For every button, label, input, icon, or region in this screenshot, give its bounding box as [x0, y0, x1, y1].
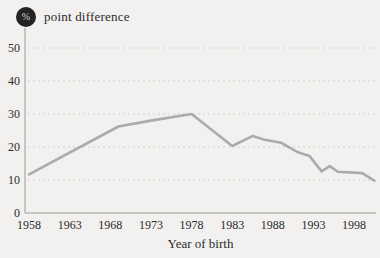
- chart-header: % point difference: [16, 7, 130, 27]
- chart-canvas: 0102030405019581963196819731978198319881…: [0, 0, 380, 258]
- chart-title: point difference: [44, 9, 130, 25]
- percent-badge-icon: %: [16, 7, 36, 27]
- percent-badge-label: %: [22, 12, 30, 22]
- x-tick-label: 1963: [58, 218, 82, 232]
- y-tick-label: 30: [8, 107, 20, 121]
- y-tick-label: 50: [8, 41, 20, 55]
- data-line: [29, 114, 374, 181]
- line-chart: 0102030405019581963196819731978198319881…: [0, 0, 380, 258]
- x-tick-label: 1958: [17, 218, 41, 232]
- x-axis-title: Year of birth: [168, 236, 234, 251]
- x-tick-label: 1978: [180, 218, 204, 232]
- x-tick-label: 1988: [261, 218, 285, 232]
- y-tick-label: 40: [8, 74, 20, 88]
- y-tick-label: 20: [8, 140, 20, 154]
- x-tick-label: 1968: [98, 218, 122, 232]
- x-tick-label: 1993: [301, 218, 325, 232]
- y-tick-label: 10: [8, 173, 20, 187]
- x-tick-label: 1983: [220, 218, 244, 232]
- x-tick-label: 1998: [342, 218, 366, 232]
- x-tick-label: 1973: [139, 218, 163, 232]
